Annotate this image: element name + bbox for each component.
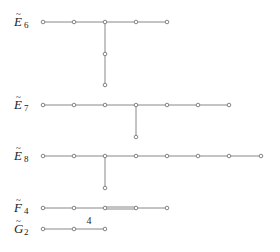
dynkin-diagrams-canvas: E~6E~7E~8F~4G~24 <box>0 0 280 252</box>
diagram-subscript: 2 <box>24 227 29 237</box>
node-icon <box>41 227 45 231</box>
diagram-g2: G~24 <box>14 215 107 237</box>
node-icon <box>196 103 200 107</box>
node-icon <box>165 103 169 107</box>
node-icon <box>134 103 138 107</box>
tilde-mark: ~ <box>16 216 21 226</box>
diagram-e8: E~8 <box>13 143 263 190</box>
node-icon <box>103 52 107 56</box>
diagram-subscript: 8 <box>24 154 29 164</box>
node-icon <box>103 20 107 24</box>
node-icon <box>41 154 45 158</box>
node-icon <box>103 206 107 210</box>
diagram-subscript: 6 <box>24 20 29 30</box>
diagram-subscript: 4 <box>24 206 29 216</box>
node-icon <box>41 20 45 24</box>
node-icon <box>103 154 107 158</box>
node-icon <box>103 186 107 190</box>
tilde-mark: ~ <box>16 143 21 153</box>
node-icon <box>165 154 169 158</box>
node-icon <box>134 20 138 24</box>
tilde-mark: ~ <box>16 195 21 205</box>
edge-weight-label: 4 <box>87 215 92 226</box>
node-icon <box>165 20 169 24</box>
node-icon <box>227 154 231 158</box>
node-icon <box>72 154 76 158</box>
node-icon <box>165 206 169 210</box>
node-icon <box>41 206 45 210</box>
node-icon <box>196 154 200 158</box>
node-icon <box>134 135 138 139</box>
node-icon <box>72 103 76 107</box>
node-icon <box>72 206 76 210</box>
diagram-f4: F~4 <box>13 195 169 216</box>
tilde-mark: ~ <box>16 92 21 102</box>
node-icon <box>227 103 231 107</box>
node-icon <box>41 103 45 107</box>
node-icon <box>103 227 107 231</box>
tilde-mark: ~ <box>16 9 21 19</box>
node-icon <box>259 154 263 158</box>
node-icon <box>72 227 76 231</box>
node-icon <box>103 83 107 87</box>
node-icon <box>134 154 138 158</box>
node-icon <box>103 103 107 107</box>
diagram-e7: E~7 <box>13 92 231 139</box>
diagram-subscript: 7 <box>24 103 29 113</box>
node-icon <box>134 206 138 210</box>
node-icon <box>72 20 76 24</box>
diagram-e6: E~6 <box>13 9 169 87</box>
